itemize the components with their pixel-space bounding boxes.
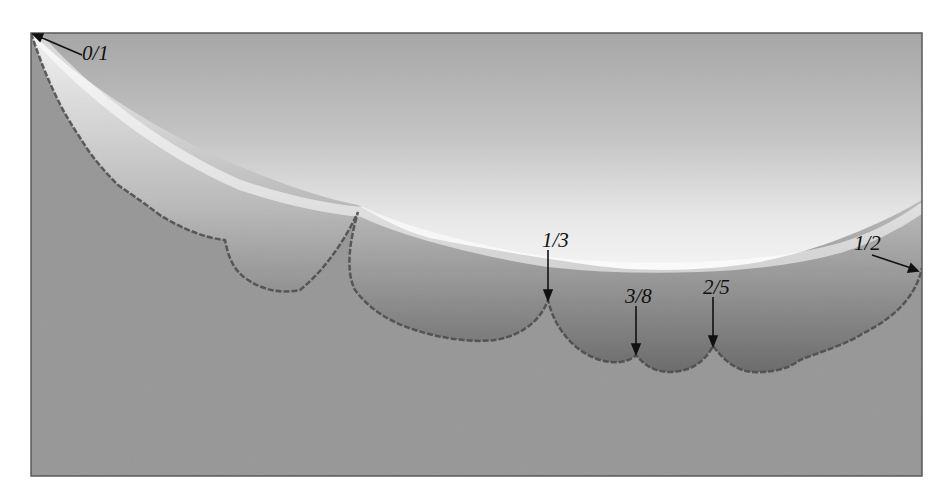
label-2-5: 2/5 [703, 275, 730, 299]
label-3-8: 3/8 [624, 284, 652, 308]
label-1-3: 1/3 [542, 228, 569, 252]
fractal-figure: 0/1 1/3 3/8 2/5 1/2 [0, 0, 947, 498]
label-1-2: 1/2 [854, 231, 881, 255]
label-0-1: 0/1 [82, 41, 109, 65]
